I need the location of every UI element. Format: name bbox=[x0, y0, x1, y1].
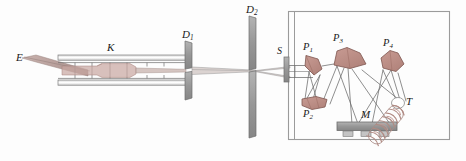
label-P4: P4 bbox=[383, 38, 393, 49]
prism-P4-body bbox=[381, 51, 404, 72]
tube-wall-bottom bbox=[58, 80, 187, 85]
beam-D1-to-D2 bbox=[192, 67, 256, 75]
mirror-M-surface bbox=[337, 122, 397, 131]
entrance-slit-S bbox=[284, 57, 289, 82]
ray-P3-M-b bbox=[348, 68, 352, 124]
prism-P3 bbox=[334, 48, 366, 69]
slit-S-body bbox=[284, 57, 289, 82]
aperture-D1-upper-jaw bbox=[185, 41, 192, 69]
discharge-tube-K bbox=[58, 55, 187, 85]
ray-P2-P3-b bbox=[330, 68, 344, 104]
prism-P3-body bbox=[334, 48, 366, 69]
prism-P4 bbox=[381, 51, 404, 72]
aperture-D2 bbox=[249, 16, 256, 138]
label-E: E bbox=[16, 52, 23, 63]
prism-P1-body bbox=[305, 56, 322, 76]
label-D1: D1 bbox=[182, 29, 194, 40]
label-D2: D2 bbox=[246, 4, 258, 15]
figure-canvas: E K D1 D2 S P1 P2 P3 P4 M T bbox=[0, 0, 466, 161]
ray-M-P4-b bbox=[372, 70, 383, 124]
label-P2: P2 bbox=[303, 109, 313, 120]
label-P3: P3 bbox=[333, 33, 343, 44]
label-K: K bbox=[107, 42, 114, 53]
tube-exit-beam bbox=[136, 68, 186, 73]
ray-P2-P3-a bbox=[323, 66, 337, 101]
ray-P1-P3 bbox=[322, 64, 334, 66]
optical-ray-network bbox=[305, 64, 406, 124]
ray-P3-M-a bbox=[337, 66, 358, 124]
label-T: T bbox=[406, 96, 412, 107]
tube-wall-top bbox=[58, 55, 187, 60]
mirror-mount-left bbox=[343, 131, 353, 137]
label-M: M bbox=[361, 109, 370, 120]
aperture-D2-lower-jaw bbox=[249, 71, 256, 138]
label-P1: P1 bbox=[303, 42, 313, 53]
aperture-D2-upper-jaw bbox=[249, 16, 256, 70]
prism-P1 bbox=[305, 56, 322, 76]
diagram-svg bbox=[0, 0, 466, 161]
label-S: S bbox=[277, 46, 282, 56]
aperture-D1-lower-jaw bbox=[185, 71, 192, 100]
